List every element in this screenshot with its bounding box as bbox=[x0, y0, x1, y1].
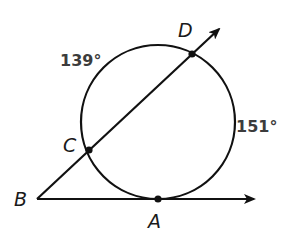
arc-measure-139: 139° bbox=[60, 53, 101, 69]
point-A-dot bbox=[154, 195, 161, 202]
label-point-A: A bbox=[148, 212, 161, 231]
point-C-dot bbox=[85, 146, 92, 153]
label-point-D: D bbox=[178, 21, 193, 40]
circle bbox=[81, 45, 235, 199]
arc-measure-151: 151° bbox=[236, 119, 277, 135]
label-point-B: B bbox=[14, 190, 27, 209]
label-point-C: C bbox=[63, 136, 76, 155]
point-D-dot bbox=[188, 50, 195, 57]
